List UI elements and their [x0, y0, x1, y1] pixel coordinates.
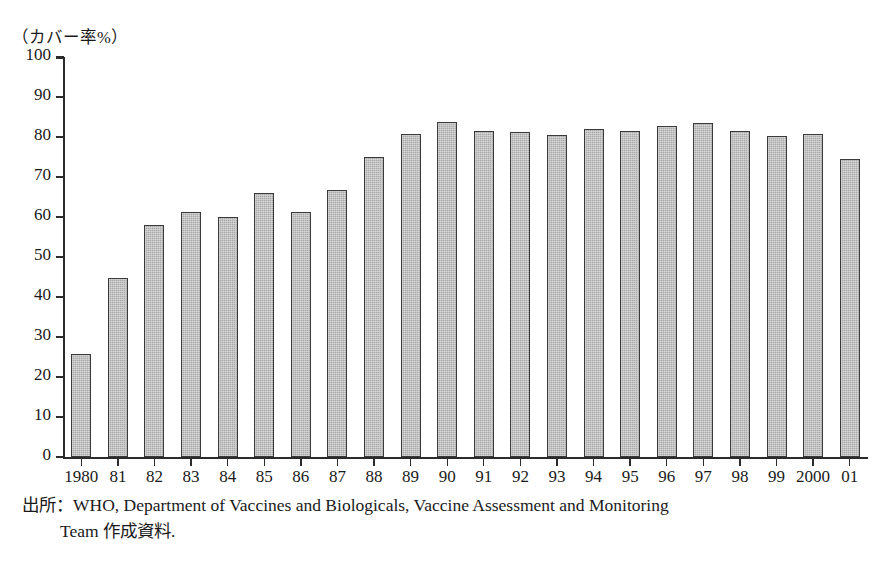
x-axis-tick-label: 91	[475, 467, 492, 487]
x-axis-tick	[117, 457, 118, 466]
y-axis-tick-label: 10	[9, 405, 51, 425]
y-axis-tick-label: 50	[9, 245, 51, 265]
bar	[364, 157, 384, 457]
x-axis-tick	[556, 457, 557, 466]
x-axis-tick-label: 98	[731, 467, 748, 487]
x-axis-tick	[812, 457, 813, 466]
x-axis-tick	[703, 457, 704, 466]
y-axis-tick-label: 40	[9, 285, 51, 305]
x-axis-tick-label: 90	[439, 467, 456, 487]
bar	[437, 122, 457, 457]
bar	[693, 123, 713, 457]
x-axis-tick	[190, 457, 191, 466]
x-axis-tick	[739, 457, 740, 466]
chart-figure: （カバー率%） 0102030405060708090100 198081828…	[0, 0, 879, 569]
bar	[181, 212, 201, 457]
y-axis-tick: 20	[56, 376, 64, 377]
bar	[108, 278, 128, 457]
x-axis-tick-label: 94	[585, 467, 602, 487]
y-axis-tick: 60	[56, 216, 64, 217]
x-axis-tick-label: 81	[109, 467, 126, 487]
y-axis-tick-label: 100	[9, 45, 51, 65]
y-axis-tick-label: 20	[9, 365, 51, 385]
y-axis-tick: 0	[56, 456, 64, 457]
bar	[547, 135, 567, 457]
y-axis-tick: 10	[56, 416, 64, 417]
x-axis-tick	[520, 457, 521, 466]
y-axis-tick-label: 0	[9, 445, 51, 465]
x-axis-tick-label: 99	[768, 467, 785, 487]
x-axis-tick	[373, 457, 374, 466]
x-axis-tick-label: 84	[219, 467, 236, 487]
bar	[840, 159, 860, 457]
x-axis-tick	[849, 457, 850, 466]
x-axis-tick-label: 95	[622, 467, 639, 487]
bar	[510, 132, 530, 457]
bar	[254, 193, 274, 457]
x-axis-tick-label: 89	[402, 467, 419, 487]
y-axis-tick-label: 90	[9, 85, 51, 105]
x-axis-tick	[593, 457, 594, 466]
x-axis-tick-label: 87	[329, 467, 346, 487]
x-axis-tick-label: 01	[841, 467, 858, 487]
y-axis-tick: 100	[56, 56, 64, 57]
x-axis-tick	[300, 457, 301, 466]
bar	[144, 225, 164, 457]
bar	[730, 131, 750, 457]
x-axis-tick	[410, 457, 411, 466]
bar	[767, 136, 787, 457]
x-axis-tick-label: 97	[695, 467, 712, 487]
x-axis-tick	[337, 457, 338, 466]
x-axis-tick	[447, 457, 448, 466]
x-axis-tick	[227, 457, 228, 466]
x-axis-tick-label: 88	[366, 467, 383, 487]
y-axis-tick-label: 60	[9, 205, 51, 225]
y-axis-tick-label: 30	[9, 325, 51, 345]
x-axis-tick	[264, 457, 265, 466]
x-axis-tick-label: 92	[512, 467, 529, 487]
bar	[620, 131, 640, 457]
y-axis-tick: 70	[56, 176, 64, 177]
plot-area: 0102030405060708090100 19808182838485868…	[63, 57, 868, 457]
x-axis-tick-label: 86	[292, 467, 309, 487]
x-axis-tick-label: 93	[548, 467, 565, 487]
source-note: 出所：WHO, Department of Vaccines and Biolo…	[22, 492, 872, 544]
x-axis-line	[63, 457, 868, 459]
x-axis-tick-label: 2000	[796, 467, 830, 487]
x-axis-tick	[776, 457, 777, 466]
y-axis-tick-label: 70	[9, 165, 51, 185]
x-axis-tick-label: 85	[256, 467, 273, 487]
bar	[401, 134, 421, 457]
source-note-line-2: Team 作成資料.	[22, 518, 872, 544]
y-axis-tick: 40	[56, 296, 64, 297]
bar	[218, 217, 238, 457]
y-axis-tick-label: 80	[9, 125, 51, 145]
bar	[803, 134, 823, 457]
source-note-line-1: 出所：WHO, Department of Vaccines and Biolo…	[22, 492, 872, 518]
bar	[327, 190, 347, 457]
x-axis-tick	[483, 457, 484, 466]
x-axis-tick-label: 96	[658, 467, 675, 487]
y-axis-tick: 50	[56, 256, 64, 257]
x-axis-tick-label: 82	[146, 467, 163, 487]
bar	[71, 354, 91, 457]
x-axis-tick	[81, 457, 82, 466]
bar	[584, 129, 604, 457]
y-axis-tick: 90	[56, 96, 64, 97]
x-axis-tick	[629, 457, 630, 466]
y-axis-tick: 30	[56, 336, 64, 337]
x-axis-tick	[154, 457, 155, 466]
x-axis-tick-label: 1980	[64, 467, 98, 487]
bar	[657, 126, 677, 457]
x-axis-tick	[666, 457, 667, 466]
bar	[291, 212, 311, 457]
y-axis-tick: 80	[56, 136, 64, 137]
bar	[474, 131, 494, 457]
x-axis-tick-label: 83	[183, 467, 200, 487]
